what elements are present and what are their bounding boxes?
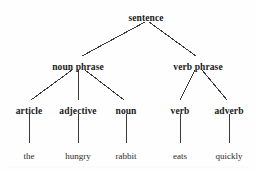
tree-edge-vp-to-verb bbox=[180, 70, 195, 100]
tree-node-vp: verb phrase bbox=[173, 63, 222, 73]
tree-node-quickly: quickly bbox=[216, 152, 243, 161]
tree-node-article: article bbox=[16, 107, 43, 117]
syntax-tree-diagram: sentencenoun phraseverb phrasearticleadj… bbox=[0, 0, 256, 171]
tree-edge-sentence-to-vp bbox=[149, 22, 196, 56]
tree-node-adjective: adjective bbox=[59, 107, 96, 117]
tree-node-adverb: adverb bbox=[214, 107, 243, 117]
tree-node-sentence: sentence bbox=[128, 14, 163, 24]
scan-artifact bbox=[8, 166, 248, 168]
tree-node-rabbit: rabbit bbox=[116, 152, 137, 161]
tree-node-noun: noun bbox=[115, 107, 136, 117]
tree-node-eats: eats bbox=[173, 152, 187, 161]
tree-edge-layer bbox=[0, 0, 256, 171]
tree-edge-np-to-noun bbox=[85, 70, 124, 100]
tree-edge-np-to-article bbox=[31, 70, 72, 100]
tree-node-verb: verb bbox=[171, 107, 190, 117]
tree-node-np: noun phrase bbox=[52, 63, 104, 73]
tree-edge-vp-to-adverb bbox=[202, 70, 227, 100]
tree-edge-sentence-to-np bbox=[82, 22, 145, 56]
tree-node-the: the bbox=[24, 152, 35, 161]
tree-node-hungry: hungry bbox=[65, 152, 91, 161]
